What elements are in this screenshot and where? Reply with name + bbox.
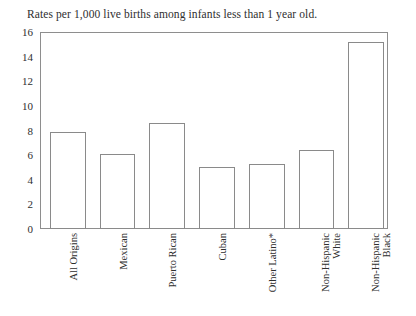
x-axis-tick-label-line: Non-Hispanic	[370, 233, 381, 292]
y-axis: 1614121086420	[0, 32, 40, 229]
x-axis-tick-label-line: Mexican	[118, 233, 129, 270]
x-axis-tick-label: All Origins	[68, 233, 79, 281]
y-axis-tick-label: 4	[28, 174, 34, 186]
x-axis-tick-label: Non-HispanicWhite	[320, 233, 342, 292]
x-axis-tick-label: Mexican	[118, 233, 129, 270]
x-axis-tick-label-line: White	[331, 233, 342, 292]
y-axis-tick-label: 12	[22, 75, 33, 87]
y-axis-tick-label: 8	[28, 125, 34, 137]
y-axis-tick-label: 14	[22, 51, 33, 63]
x-axis-tick-label-line: All Origins	[68, 233, 79, 281]
y-axis-tick-label: 6	[28, 149, 34, 161]
bars-layer	[40, 32, 388, 229]
x-axis-tick-label-line: Other Latino*	[267, 233, 278, 292]
y-axis-tick-label: 16	[22, 26, 33, 38]
bar-other-latino	[249, 164, 285, 229]
x-axis-tick-label: Other Latino*	[267, 233, 278, 292]
x-axis-tick-label: Non-HispanicBlack	[370, 233, 392, 292]
x-axis-tick-label-line: Cuban	[217, 233, 228, 260]
x-axis-tick-label-line: Black	[381, 233, 392, 292]
x-axis-tick-label-line: Non-Hispanic	[320, 233, 331, 292]
x-axis-tick-label: Puerto Rican	[167, 233, 178, 288]
bar-puerto-rican	[149, 123, 185, 229]
infant-mortality-bar-chart: Rates per 1,000 live births among infant…	[0, 0, 416, 316]
bar-mexican	[100, 154, 136, 229]
chart-title: Rates per 1,000 live births among infant…	[27, 8, 317, 21]
y-axis-tick-label: 10	[22, 100, 33, 112]
bar-non-hispanic-black	[348, 42, 384, 229]
bar-non-hispanic-white	[299, 150, 335, 229]
x-axis-labels: All OriginsMexicanPuerto RicanCubanOther…	[40, 231, 388, 316]
y-axis-tick-label: 2	[28, 198, 34, 210]
y-axis-tick-label: 0	[28, 223, 34, 235]
bar-cuban	[199, 167, 235, 229]
x-axis-tick-label: Cuban	[217, 233, 228, 260]
x-axis-tick-label-line: Puerto Rican	[167, 233, 178, 288]
bar-all-origins	[50, 132, 86, 229]
